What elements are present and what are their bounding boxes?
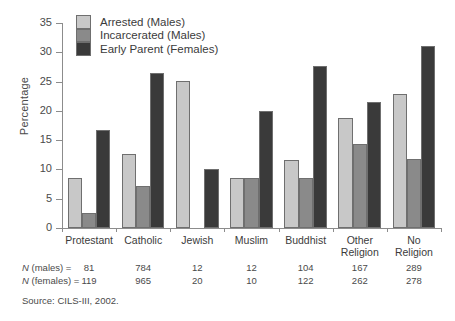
x-tick	[62, 228, 63, 232]
bar	[259, 111, 273, 228]
legend-item: Early Parent (Females)	[76, 42, 218, 56]
sample-size-value: 12	[232, 262, 272, 273]
sample-size-row-label: N (males) =	[22, 262, 71, 273]
category-label-no-religion: NoReligion	[387, 234, 441, 258]
legend-item: Arrested (Males)	[76, 15, 218, 29]
bar	[68, 178, 82, 228]
bar-group	[230, 23, 273, 228]
sample-size-value: 262	[340, 275, 380, 286]
bar	[313, 66, 327, 228]
sample-size-value: 119	[69, 275, 109, 286]
bar	[176, 81, 190, 228]
source-note: Source: CILS-III, 2002.	[22, 295, 119, 306]
sample-size-value: 278	[394, 275, 434, 286]
sample-size-table: N (males) =817841212104167289N (females)…	[22, 262, 442, 288]
y-tick-label-0: 0	[22, 221, 52, 233]
sample-size-value: 784	[123, 262, 163, 273]
x-tick	[279, 228, 280, 232]
y-tick-label-35: 35	[22, 16, 52, 28]
category-label-protestant: Protestant	[62, 234, 116, 246]
x-tick	[224, 228, 225, 232]
y-tick-label-15: 15	[22, 133, 52, 145]
sample-size-row: N (females) =1199652010122262278	[22, 275, 442, 288]
category-label-other-religion: OtherReligion	[333, 234, 387, 258]
legend-label: Incarcerated (Males)	[100, 29, 205, 41]
y-tick-label-30: 30	[22, 45, 52, 57]
bar	[338, 118, 352, 228]
bar	[299, 178, 313, 228]
sample-size-value: 965	[123, 275, 163, 286]
legend-swatch	[76, 42, 91, 56]
sample-size-value: 167	[340, 262, 380, 273]
bar	[284, 160, 298, 228]
bar	[244, 178, 258, 228]
sample-size-value: 122	[286, 275, 326, 286]
x-tick	[170, 228, 171, 232]
bar	[136, 186, 150, 228]
bar	[421, 46, 435, 228]
sample-size-value: 81	[69, 262, 109, 273]
sample-size-value: 104	[286, 262, 326, 273]
legend-label: Early Parent (Females)	[100, 43, 218, 55]
sample-size-value: 289	[394, 262, 434, 273]
bar-group	[338, 23, 381, 228]
bar-group	[393, 23, 436, 228]
x-tick	[116, 228, 117, 232]
sample-size-row: N (males) =817841212104167289	[22, 262, 442, 275]
x-tick	[333, 228, 334, 232]
bar	[96, 130, 110, 228]
legend-swatch	[76, 29, 91, 43]
legend-swatch	[76, 15, 91, 29]
category-label-jewish: Jewish	[170, 234, 224, 246]
x-axis-line	[56, 228, 441, 229]
bar	[353, 144, 367, 228]
bar	[407, 159, 421, 228]
x-tick	[441, 228, 442, 232]
bar	[230, 178, 244, 228]
bar	[393, 94, 407, 228]
category-label-catholic: Catholic	[116, 234, 170, 246]
y-tick-label-10: 10	[22, 162, 52, 174]
bar-group	[284, 23, 327, 228]
sample-size-value: 10	[232, 275, 272, 286]
legend-item: Incarcerated (Males)	[76, 29, 218, 43]
chart-figure: Percentage 05101520253035 ProtestantCath…	[0, 0, 455, 321]
bar	[150, 73, 164, 228]
sample-size-value: 20	[177, 275, 217, 286]
y-tick-label-20: 20	[22, 104, 52, 116]
category-label-muslim: Muslim	[224, 234, 278, 246]
legend-label: Arrested (Males)	[100, 16, 185, 28]
sample-size-value: 12	[177, 262, 217, 273]
chart-legend: Arrested (Males)Incarcerated (Males)Earl…	[76, 15, 218, 56]
bar	[82, 213, 96, 228]
x-tick	[387, 228, 388, 232]
y-tick-label-25: 25	[22, 75, 52, 87]
y-tick-label-5: 5	[22, 192, 52, 204]
bar	[367, 102, 381, 228]
category-label-buddhist: Buddhist	[279, 234, 333, 246]
bar	[204, 169, 218, 228]
bar	[122, 154, 136, 228]
